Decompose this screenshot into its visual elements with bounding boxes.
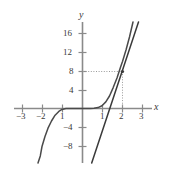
x-tick-label-1: 1	[100, 112, 105, 121]
point-of-tangency-marker	[121, 70, 124, 73]
y-tick-label-8: 8	[69, 67, 74, 76]
x-tick-label-2: 2	[119, 112, 124, 121]
y-tick-label--8: −8	[63, 142, 73, 151]
y-axis-label: y	[79, 10, 83, 20]
x-axis-label: x	[154, 102, 158, 112]
y-tick-label-4: 4	[69, 86, 74, 95]
x-tick-label--2: −2	[36, 112, 46, 121]
y-tick-label-12: 12	[63, 48, 72, 57]
y-tick-label--4: −4	[63, 123, 73, 132]
x-tick-label-3: 3	[139, 112, 144, 121]
cubic-curve	[38, 22, 133, 163]
y-tick-label-16: 16	[63, 29, 72, 38]
x-tick-label--1: 1	[60, 112, 65, 121]
plot-canvas	[0, 0, 172, 171]
tangent-line-curve	[92, 22, 139, 163]
cubic-with-tangent-line-figure: −3 −2 1 1 2 3 16 12 8 4 −4 −8 x y	[0, 0, 172, 171]
x-tick-label--3: −3	[16, 112, 26, 121]
